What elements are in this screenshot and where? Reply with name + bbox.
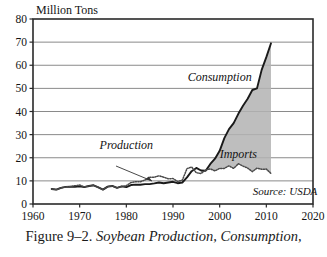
annotation-consumption: Consumption bbox=[188, 70, 252, 84]
annotation-imports: Imports bbox=[219, 147, 258, 161]
caption-number: Figure 9–2. bbox=[25, 228, 92, 244]
y-tick-label: 10 bbox=[16, 175, 28, 187]
x-tick-label: 2000 bbox=[208, 210, 231, 222]
x-axis-labels: 1960197019801990200020102020 bbox=[22, 210, 325, 222]
y-tick-label: 50 bbox=[16, 82, 28, 94]
y-axis-unit-label: Million Tons bbox=[36, 3, 98, 17]
caption-title: Soybean Production, Consumption, bbox=[96, 228, 302, 244]
y-axis-labels: 01020304050607080 bbox=[16, 13, 28, 210]
y-tick-label: 80 bbox=[16, 13, 28, 25]
y-tick-label: 60 bbox=[16, 59, 28, 71]
y-tick-label: 40 bbox=[16, 106, 28, 118]
x-tick-label: 2010 bbox=[255, 210, 278, 222]
y-tick-label: 20 bbox=[16, 152, 28, 164]
figure-container: 01020304050607080 1960197019801990200020… bbox=[0, 0, 327, 257]
y-tick-label: 0 bbox=[21, 198, 27, 210]
y-tick-label: 70 bbox=[16, 36, 28, 48]
x-tick-label: 1990 bbox=[162, 210, 185, 222]
figure-caption: Figure 9–2. Soybean Production, Consumpt… bbox=[0, 228, 327, 245]
x-tick-label: 2020 bbox=[302, 210, 325, 222]
x-tick-label: 1960 bbox=[22, 210, 45, 222]
x-tick-label: 1970 bbox=[68, 210, 91, 222]
annotation-production: Production bbox=[99, 138, 154, 152]
y-tick-label: 30 bbox=[16, 129, 28, 141]
annotation-source: Source: USDA bbox=[253, 185, 318, 197]
x-tick-label: 1980 bbox=[115, 210, 138, 222]
soybean-chart: 01020304050607080 1960197019801990200020… bbox=[0, 0, 327, 257]
